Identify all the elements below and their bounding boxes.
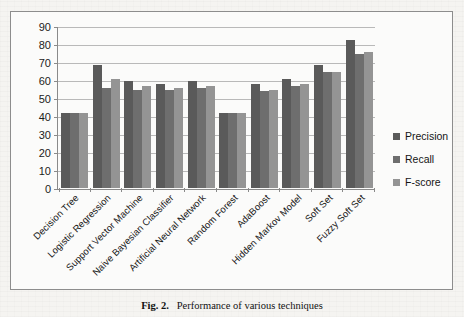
figure-number: Fig. 2.	[141, 300, 169, 311]
bar-precision	[219, 113, 228, 188]
bar-precision	[251, 84, 260, 188]
bar-precision	[61, 113, 70, 188]
y-axis-tick-label: 20	[39, 147, 51, 159]
plot-area: 0102030405060708090	[57, 27, 375, 190]
bar-f-score	[111, 79, 120, 188]
y-axis-tick	[54, 153, 58, 154]
bar-group	[312, 27, 344, 188]
legend-item-precision: Precision	[393, 130, 448, 142]
bar-group	[185, 27, 217, 188]
y-axis-tick	[54, 81, 58, 82]
legend-swatch-icon	[393, 179, 400, 186]
legend-label: F-score	[405, 176, 441, 188]
legend-label: Precision	[405, 130, 448, 142]
bar-recall	[228, 113, 237, 188]
y-axis-tick-label: 40	[39, 111, 51, 123]
bar-precision	[188, 81, 197, 188]
y-axis-tick-label: 50	[39, 93, 51, 105]
bar-group	[122, 27, 154, 188]
y-axis-tick	[54, 45, 58, 46]
bar-f-score	[174, 88, 183, 188]
legend-label: Recall	[405, 153, 434, 165]
bar-group	[154, 27, 186, 188]
bar-recall	[102, 88, 111, 188]
bar-group	[217, 27, 249, 188]
bar-f-score	[269, 90, 278, 188]
bar-precision	[93, 65, 102, 188]
bar-f-score	[142, 86, 151, 188]
chart-frame: 0102030405060708090 Decision TreeLogisti…	[10, 11, 453, 290]
bar-precision	[156, 84, 165, 188]
bar-precision	[124, 81, 133, 188]
bar-f-score	[364, 52, 373, 188]
y-axis-tick-label: 70	[39, 57, 51, 69]
y-axis-tick	[54, 27, 58, 28]
plot-axes: 0102030405060708090	[57, 27, 375, 190]
figure-caption-text: Performance of various techniques	[177, 300, 323, 311]
y-axis-tick	[54, 189, 58, 190]
bar-f-score	[332, 72, 341, 188]
y-axis-tick	[54, 63, 58, 64]
bar-precision	[346, 40, 355, 188]
bar-recall	[323, 72, 332, 188]
y-axis-tick-label: 30	[39, 129, 51, 141]
bar-series-layer	[59, 27, 375, 188]
bar-recall	[355, 54, 364, 188]
bar-recall	[197, 88, 206, 188]
y-axis-tick-label: 10	[39, 165, 51, 177]
figure-caption: Fig. 2. Performance of various technique…	[0, 300, 464, 311]
y-axis-tick-label: 0	[45, 183, 51, 195]
legend-swatch-icon	[393, 156, 400, 163]
y-axis-tick	[54, 117, 58, 118]
bar-recall	[133, 90, 142, 188]
bar-f-score	[300, 84, 309, 188]
legend-item-f-score: F-score	[393, 176, 448, 188]
bar-recall	[70, 113, 79, 188]
bar-group	[343, 27, 375, 188]
bar-group	[91, 27, 123, 188]
bar-group	[280, 27, 312, 188]
bar-f-score	[237, 113, 246, 188]
bar-group	[249, 27, 281, 188]
y-axis-tick	[54, 99, 58, 100]
bar-f-score	[206, 86, 215, 188]
y-axis-tick	[54, 135, 58, 136]
legend-item-recall: Recall	[393, 153, 448, 165]
y-axis-tick-label: 90	[39, 21, 51, 33]
y-axis-tick-label: 60	[39, 75, 51, 87]
x-axis-category-labels: Decision TreeLogistic RegressionSupport …	[57, 192, 375, 292]
bar-recall	[291, 86, 300, 188]
bar-recall	[260, 91, 269, 188]
y-axis-tick	[54, 171, 58, 172]
chart-legend: PrecisionRecallF-score	[393, 130, 448, 188]
bar-f-score	[79, 113, 88, 188]
bar-precision	[314, 65, 323, 188]
bar-precision	[282, 79, 291, 188]
legend-swatch-icon	[393, 133, 400, 140]
bar-group	[59, 27, 91, 188]
bar-recall	[165, 90, 174, 188]
figure-container: 0102030405060708090 Decision TreeLogisti…	[0, 0, 464, 317]
y-axis-tick-label: 80	[39, 39, 51, 51]
